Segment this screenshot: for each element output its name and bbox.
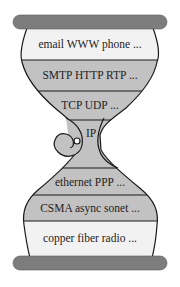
layer-label-mac: CSMA async sonet ...	[40, 202, 140, 215]
layer-label-applications: email WWW phone ...	[38, 38, 141, 51]
bottom-bar	[13, 256, 167, 270]
hourglass-diagram: email WWW phone ... SMTP HTTP RTP ... TC…	[0, 0, 180, 287]
top-bar	[13, 15, 167, 29]
layer-label-ip: IP	[86, 127, 96, 139]
layer-label-application-protocols: SMTP HTTP RTP ...	[42, 69, 137, 81]
layer-label-link: ethernet PPP ...	[55, 176, 125, 188]
layer-bands	[0, 28, 180, 261]
layer-label-transport: TCP UDP ...	[61, 99, 119, 111]
layer-label-physical: copper fiber radio ...	[43, 232, 137, 245]
